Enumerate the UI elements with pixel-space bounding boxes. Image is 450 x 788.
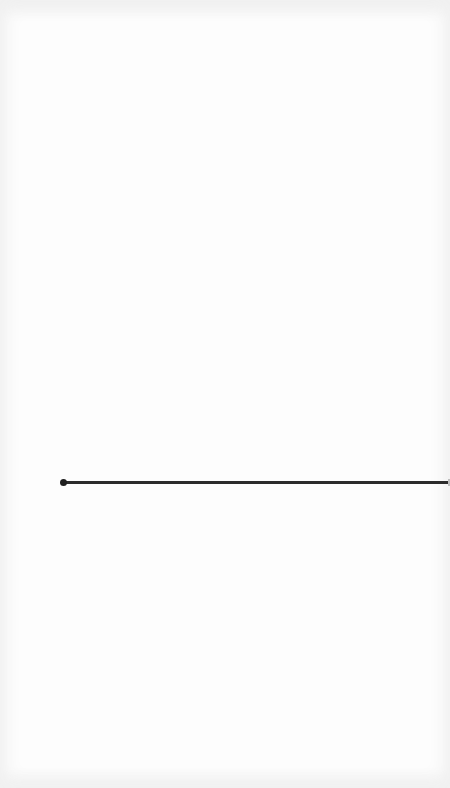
line-start-handle-icon[interactable] bbox=[60, 479, 67, 486]
blank-canvas bbox=[0, 0, 450, 788]
horizontal-line-track[interactable] bbox=[63, 481, 450, 484]
